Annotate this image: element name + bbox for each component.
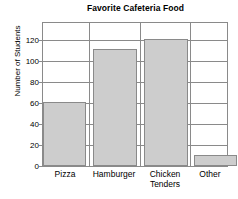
y-tick-label: 120 [5,37,39,45]
plot-area [42,22,228,167]
x-tick-label-other: Other [190,169,230,179]
x-tick-label-line: Other [190,169,230,179]
bar-hamburger [93,49,137,166]
category-divider [190,23,191,166]
y-tick-label: 20 [5,142,39,150]
x-tick-label-line: Hamburger [88,169,140,179]
category-divider [140,23,141,166]
y-tick-label: 40 [5,121,39,129]
y-tick-label: 60 [5,100,39,108]
y-tick-label: 0 [5,163,39,171]
bar-pizza [43,102,86,166]
bar-chicken-tenders [144,39,188,166]
y-tick-label: 80 [5,79,39,87]
x-tick-label-line: Pizza [42,169,88,179]
x-tick-label-line: Chicken [140,169,190,179]
chart-title: Favorite Cafeteria Food [42,3,229,14]
x-tick-label-chicken-tenders: Chicken Tenders [140,169,190,189]
gridline-120 [43,40,227,41]
bar-other [194,155,237,166]
x-tick-label-hamburger: Hamburger [88,169,140,179]
x-tick-label-line: Tenders [140,179,190,189]
y-tick-label: 100 [5,58,39,66]
category-divider [89,23,90,166]
x-tick-label-pizza: Pizza [42,169,88,179]
bar-chart-figure: Favorite Cafeteria Food Number of Studen… [0,0,238,199]
